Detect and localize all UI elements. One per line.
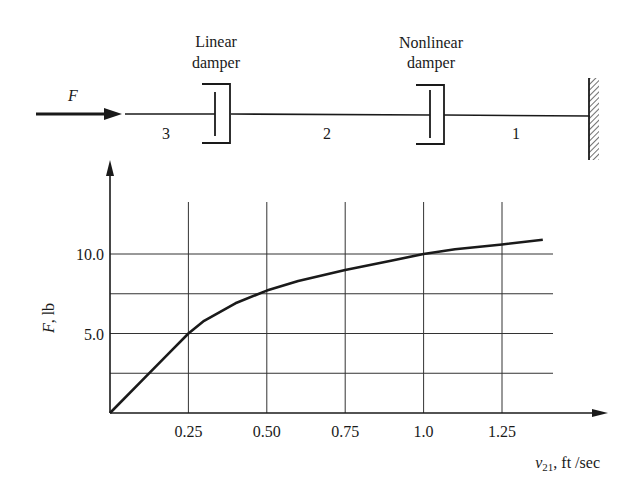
x-axis-arrow-icon bbox=[592, 409, 608, 417]
force-label: F bbox=[67, 87, 78, 104]
segment-2 bbox=[231, 114, 430, 115]
y-tick-label: 5.0 bbox=[84, 326, 104, 343]
y-axis-arrow-icon bbox=[106, 160, 114, 176]
y-tick-label: 10.0 bbox=[76, 246, 104, 263]
y-tick-labels: 5.010.0 bbox=[76, 246, 104, 343]
damper-diagram: F Linear damper Nonlinear damper 3 2 1 bbox=[36, 33, 599, 160]
x-tick-label: 1.25 bbox=[488, 423, 516, 440]
y-axis-label: F, lb bbox=[40, 303, 57, 334]
figure: F Linear damper Nonlinear damper 3 2 1 bbox=[0, 0, 627, 496]
linear-damper-label-line2: damper bbox=[192, 54, 241, 72]
force-arrowhead-icon bbox=[104, 108, 122, 120]
node-label-2: 2 bbox=[323, 125, 331, 142]
segment-1 bbox=[444, 115, 590, 116]
nonlinear-damper-label-line2: damper bbox=[407, 54, 456, 72]
data-series-line bbox=[110, 240, 543, 413]
node-label-1: 1 bbox=[512, 125, 520, 142]
x-tick-labels: 0.250.500.751.01.25 bbox=[174, 423, 516, 440]
force-velocity-chart: 0.250.500.751.01.25 5.010.0 F, lb v21, f… bbox=[40, 160, 608, 473]
fixed-wall bbox=[589, 78, 599, 160]
x-axis-label: v21, ft /sec bbox=[535, 454, 600, 473]
nonlinear-damper-label-line1: Nonlinear bbox=[399, 34, 464, 51]
x-tick-label: 0.50 bbox=[253, 423, 281, 440]
x-tick-label: 1.0 bbox=[414, 423, 434, 440]
linear-damper-label-line1: Linear bbox=[195, 33, 237, 50]
node-label-3: 3 bbox=[162, 125, 170, 142]
x-tick-label: 0.25 bbox=[174, 423, 202, 440]
x-tick-label: 0.75 bbox=[331, 423, 359, 440]
chart-grid bbox=[110, 202, 553, 413]
